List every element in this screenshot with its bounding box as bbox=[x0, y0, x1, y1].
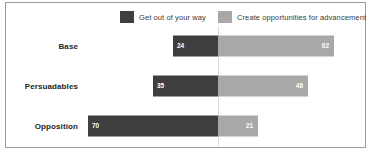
legend-item-create-opportunities[interactable]: Create opportunities for advancement bbox=[218, 9, 366, 25]
bar-value-persuadables-left: 35 bbox=[157, 83, 164, 90]
bar-base-get-out-of-your-way[interactable]: 24 bbox=[173, 36, 218, 57]
bar-value-base-left: 24 bbox=[177, 43, 184, 50]
chart-row-persuadables: Persuadables 35 48 bbox=[0, 66, 372, 106]
bar-persuadables-get-out-of-your-way[interactable]: 35 bbox=[153, 76, 218, 97]
legend-item-get-out-of-your-way[interactable]: Get out of your way bbox=[120, 9, 206, 25]
chart-container: Get out of your way Create opportunities… bbox=[0, 0, 372, 152]
category-label-base: Base bbox=[0, 42, 78, 51]
chart-row-base: Base 24 62 bbox=[0, 26, 372, 66]
bar-value-persuadables-right: 48 bbox=[296, 83, 303, 90]
category-label-opposition: Opposition bbox=[0, 122, 78, 131]
bar-opposition-create-opportunities[interactable]: 21 bbox=[218, 116, 258, 137]
bar-value-base-right: 62 bbox=[322, 43, 329, 50]
category-label-persuadables: Persuadables bbox=[0, 82, 78, 91]
bar-value-opposition-right: 21 bbox=[246, 123, 253, 130]
chart-legend: Get out of your way Create opportunities… bbox=[0, 9, 372, 25]
plot-area: Base 24 62 Persuadables 35 48 Opposition… bbox=[0, 26, 372, 146]
bar-persuadables-create-opportunities[interactable]: 48 bbox=[218, 76, 308, 97]
legend-label-create-opportunities: Create opportunities for advancement bbox=[237, 13, 366, 22]
bar-opposition-get-out-of-your-way[interactable]: 70 bbox=[88, 116, 218, 137]
bar-base-create-opportunities[interactable]: 62 bbox=[218, 36, 334, 57]
bar-value-opposition-left: 70 bbox=[92, 123, 99, 130]
legend-label-get-out-of-your-way: Get out of your way bbox=[139, 13, 206, 22]
chart-row-opposition: Opposition 70 21 bbox=[0, 106, 372, 146]
legend-swatch-dark bbox=[120, 11, 134, 23]
legend-swatch-light bbox=[218, 11, 232, 23]
